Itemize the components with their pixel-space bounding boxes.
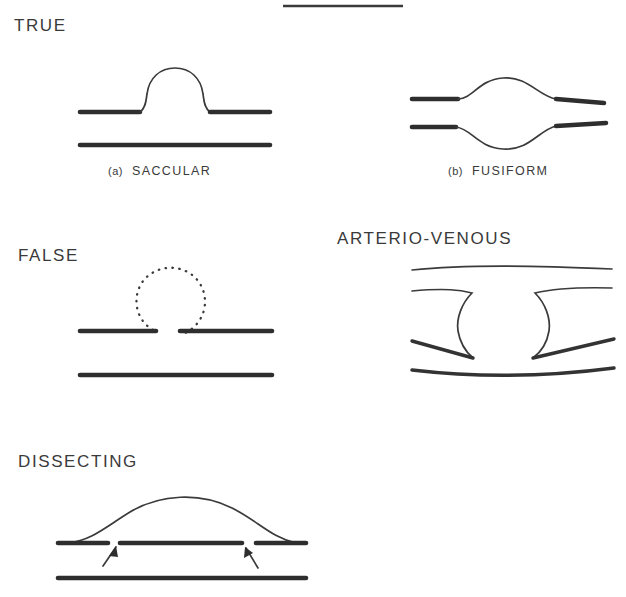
fusiform-lower-wall-right bbox=[556, 123, 606, 126]
arterio-venous-diagram bbox=[412, 266, 614, 375]
caption-fusiform: (b)FUSIFORM bbox=[448, 164, 548, 178]
saccular-diagram bbox=[80, 68, 270, 145]
fusiform-diagram bbox=[412, 78, 606, 149]
av-artery-upper-wall-left bbox=[412, 341, 473, 358]
dissecting-reentry-tear-arrow bbox=[244, 547, 258, 568]
av-artery-lower-wall bbox=[412, 368, 614, 375]
dissecting-entry-arrow-head bbox=[109, 546, 118, 557]
fusiform-upper-wall-right bbox=[556, 99, 604, 103]
caption-fusiform-text: FUSIFORM bbox=[472, 164, 548, 178]
av-vein-upper-wall bbox=[412, 266, 612, 270]
dissecting-diagram bbox=[58, 497, 306, 578]
figure-drawing-canvas bbox=[0, 0, 626, 597]
caption-saccular-index: (a) bbox=[108, 165, 123, 177]
heading-true: TRUE bbox=[14, 16, 67, 36]
heading-dissecting: DISSECTING bbox=[18, 452, 138, 472]
caption-saccular-text: SACCULAR bbox=[132, 164, 211, 178]
fusiform-upper-bulge bbox=[458, 78, 556, 99]
aneurysm-classification-figure: TRUE (a)SACCULAR (b)FUSIFORM FALSE ARTER… bbox=[0, 0, 626, 597]
heading-arterio-venous: ARTERIO-VENOUS bbox=[337, 229, 512, 249]
false-aneurysm-diagram bbox=[80, 268, 272, 375]
dissecting-entry-tear-arrow bbox=[103, 546, 118, 566]
dissecting-outer-dome bbox=[68, 497, 296, 543]
av-fistula-left-curve bbox=[412, 290, 473, 358]
heading-false: FALSE bbox=[18, 246, 79, 266]
caption-fusiform-index: (b) bbox=[448, 165, 463, 177]
fusiform-lower-bulge bbox=[456, 126, 556, 149]
false-haematoma-dotted-circle bbox=[136, 268, 205, 333]
caption-saccular: (a)SACCULAR bbox=[108, 164, 211, 178]
saccular-sac-outline bbox=[140, 68, 210, 112]
